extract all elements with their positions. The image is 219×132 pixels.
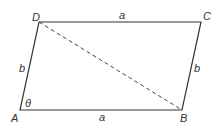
parallelogram-diagram: D C A B a a b b θ bbox=[0, 0, 219, 132]
side-label-bc: b bbox=[194, 62, 200, 74]
vertex-label-c: C bbox=[203, 10, 211, 22]
vertex-label-d: D bbox=[32, 11, 40, 23]
parallelogram-shape bbox=[20, 22, 201, 110]
vertex-label-a: A bbox=[10, 112, 18, 124]
side-label-dc: a bbox=[119, 9, 125, 21]
side-label-ad: b bbox=[19, 62, 25, 74]
vertex-label-b: B bbox=[180, 112, 187, 124]
diagonal-db bbox=[39, 22, 182, 110]
angle-label-theta: θ bbox=[25, 97, 31, 109]
side-label-ab: a bbox=[99, 111, 105, 123]
